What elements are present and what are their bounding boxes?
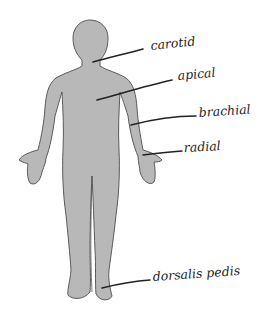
labels: carotid apical brachial radial dorsalis … <box>150 33 251 284</box>
label-carotid: carotid <box>150 33 196 53</box>
body-outline <box>19 20 162 300</box>
label-dorsalis-pedis: dorsalis pedis <box>152 263 240 284</box>
brachial-leader <box>131 116 196 125</box>
label-radial: radial <box>183 138 221 155</box>
label-brachial: brachial <box>198 101 251 120</box>
label-apical: apical <box>177 65 216 83</box>
pulse-points-diagram: carotid apical brachial radial dorsalis … <box>0 0 271 316</box>
human-body-figure <box>19 20 162 300</box>
